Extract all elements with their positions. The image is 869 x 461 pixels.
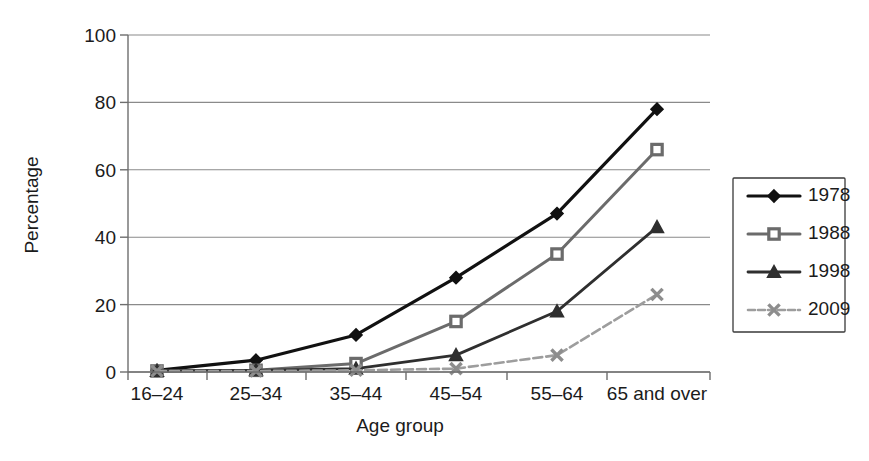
legend-label: 1988 — [808, 222, 850, 243]
x-axis-category-label: 55–64 — [531, 383, 584, 404]
legend: 1978198819982009 — [733, 178, 850, 332]
series-1988 — [152, 144, 662, 376]
y-axis-tick-label: 20 — [95, 295, 116, 316]
data-point-marker-square — [451, 316, 461, 326]
data-point-marker-cross — [651, 289, 662, 300]
legend-label: 1978 — [808, 184, 850, 205]
tickmark-group — [120, 35, 710, 380]
series-1998 — [151, 221, 664, 377]
series-line — [157, 109, 657, 370]
data-point-marker-square — [552, 249, 562, 259]
data-point-marker-square — [769, 229, 779, 239]
legend-label: 2009 — [808, 298, 850, 319]
line-chart-canvas: 020406080100 16–2425–3435–4445–5455–6465… — [0, 0, 869, 461]
x-axis-category-label: 35–44 — [330, 383, 383, 404]
x-axis-category-label: 45–54 — [430, 383, 483, 404]
x-axis-category-label: 65 and over — [607, 383, 708, 404]
y-axis-title: Percentage — [21, 156, 42, 253]
y-axis-tick-label: 40 — [95, 227, 116, 248]
series-line — [157, 227, 657, 371]
legend-label: 1998 — [808, 260, 850, 281]
series-line — [157, 150, 657, 371]
chart-figure: 020406080100 16–2425–3435–4445–5455–6465… — [0, 0, 869, 461]
y-axis-tick-labels: 020406080100 — [84, 25, 116, 383]
y-axis-tick-label: 60 — [95, 160, 116, 181]
axis-lines — [128, 35, 710, 372]
y-axis-tick-label: 80 — [95, 92, 116, 113]
x-axis-category-label: 16–24 — [131, 383, 184, 404]
data-point-marker-square — [652, 144, 662, 154]
x-axis-title: Age group — [356, 415, 444, 436]
gridline-group — [128, 35, 710, 372]
x-axis-category-labels: 16–2425–3435–4445–5455–6465 and over — [131, 383, 708, 404]
y-axis-tick-label: 0 — [105, 362, 116, 383]
y-axis-tick-label: 100 — [84, 25, 116, 46]
data-series-group — [151, 103, 664, 376]
data-point-marker-triangle — [651, 221, 664, 233]
series-1978 — [151, 103, 663, 376]
x-axis-category-label: 25–34 — [230, 383, 283, 404]
